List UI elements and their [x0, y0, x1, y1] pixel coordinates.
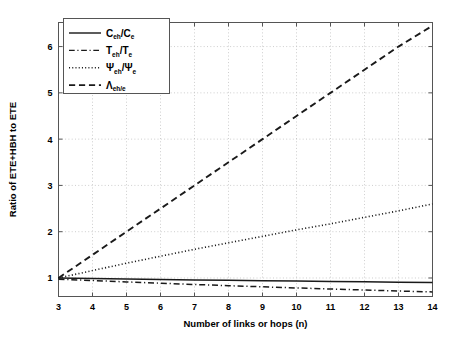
x-tick-label: 13 — [393, 302, 403, 312]
x-tick-label: 7 — [192, 302, 197, 312]
legend-label-0: Ceh/Ce — [106, 28, 135, 41]
y-tick-label: 4 — [47, 135, 52, 145]
x-axis-label: Number of links or hops (n) — [183, 318, 307, 329]
x-tick-label: 12 — [359, 302, 369, 312]
x-tick-label: 6 — [158, 302, 163, 312]
y-tick-label: 1 — [47, 273, 52, 283]
y-tick-label: 5 — [47, 88, 52, 98]
y-axis-label: Ratio of ETE+HBH to ETE — [7, 102, 18, 217]
legend-label-2: Ψeh/Ψe — [106, 62, 137, 75]
legend: Ceh/CeTeh/TeΨeh/ΨeΛeh/e — [64, 19, 170, 94]
y-tick-label: 6 — [47, 42, 52, 52]
x-tick-label: 3 — [56, 302, 61, 312]
x-tick-label: 10 — [291, 302, 301, 312]
x-tick-label: 5 — [124, 302, 129, 312]
x-tick-label: 4 — [90, 302, 95, 312]
x-tick-label: 9 — [260, 302, 265, 312]
y-tick-label: 3 — [47, 181, 52, 191]
y-tick-label: 2 — [47, 227, 52, 237]
x-tick-label: 11 — [326, 302, 336, 312]
x-tick-label: 14 — [427, 302, 437, 312]
x-tick-label: 8 — [226, 302, 231, 312]
line-chart: 34567891011121314 123456 Number of links… — [0, 0, 461, 344]
figure-container: 34567891011121314 123456 Number of links… — [0, 0, 461, 344]
